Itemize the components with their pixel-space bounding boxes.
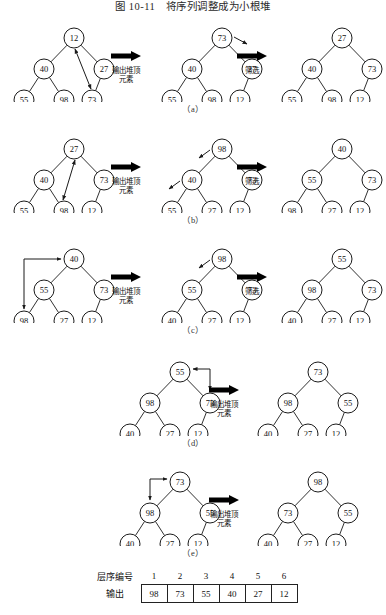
tree-edge — [325, 489, 341, 506]
process-arrow-glyph — [111, 51, 141, 61]
tree-edge — [293, 521, 302, 535]
level-order-index-cell: 4 — [219, 568, 245, 585]
tree-node: 12 — [82, 201, 102, 213]
tree-edge — [349, 45, 365, 62]
tree-node: 40 — [182, 59, 202, 79]
tree-node-label: 40 — [188, 175, 197, 185]
process-arrow-label-line2: 元素 — [217, 408, 232, 418]
tree-edge — [340, 412, 345, 424]
tree-node-label: 12 — [194, 429, 203, 436]
tree-edge — [340, 522, 345, 534]
row-header-level-order: 层序编号 — [89, 568, 142, 585]
tree-node-label: 12 — [194, 539, 203, 546]
tree-node: 98 — [302, 280, 322, 300]
tree-node-label: 55 — [20, 206, 29, 213]
tree-node: 55 — [302, 170, 322, 190]
tree-node: 73 — [362, 170, 382, 190]
tree-node: 27 — [322, 201, 342, 213]
tree-node: 27 — [64, 139, 84, 159]
tree-node: 40 — [34, 59, 54, 79]
tree-node: 12 — [82, 311, 102, 323]
figure-title: 图 10-11 将序列调整成为小根堆 — [0, 0, 386, 11]
level-order-index-cell: 3 — [193, 568, 219, 585]
tree-edge — [197, 298, 206, 312]
process-arrow-label-line2: 元素 — [119, 185, 134, 195]
tree-node-label: 12 — [356, 316, 365, 323]
tree-node: 98 — [140, 393, 160, 413]
tree-node: 73 — [94, 280, 114, 300]
tree-edge — [273, 521, 282, 535]
tree-edge — [177, 188, 186, 202]
tree-edge — [135, 411, 144, 425]
tree-node-label: 98 — [60, 206, 69, 213]
table-row-index: 层序编号 123456 — [89, 568, 298, 585]
row-header-output: 输出 — [89, 585, 142, 603]
tree-node-label: 73 — [368, 285, 377, 295]
swap-arrow — [75, 49, 91, 89]
tree-node-label: 98 — [20, 316, 29, 323]
tree-node-label: 73 — [368, 175, 377, 185]
tree-node: 27 — [54, 311, 74, 323]
tree-node: 12 — [326, 424, 346, 436]
tree-node: 73 — [82, 90, 102, 102]
process-arrow-label-line1: 筛选 — [245, 286, 260, 296]
tree-node-label: 12 — [88, 206, 97, 213]
tree-node-label: 40 — [70, 254, 79, 264]
tree-node: 27 — [322, 311, 342, 323]
tree-node-label: 27 — [328, 316, 337, 323]
tree-node: 12 — [188, 424, 208, 436]
tree-a-3: 274073559812 — [282, 28, 382, 102]
sift-hint-arrow — [234, 37, 247, 44]
tree-node: 27 — [202, 201, 222, 213]
tree-node-label: 12 — [332, 539, 341, 546]
sift-hint-arrow — [199, 260, 210, 268]
level-order-index-cell: 6 — [271, 568, 297, 585]
tree-edge — [197, 188, 206, 202]
swap-arrow — [193, 369, 210, 390]
tree-node: 12 — [64, 28, 84, 48]
tree-node-label: 98 — [218, 144, 227, 154]
tree-edge — [51, 266, 67, 283]
tree-edge — [157, 489, 173, 506]
tree-node-label: 55 — [188, 285, 197, 295]
tree-node: 55 — [14, 201, 34, 213]
process-arrow-output-d: 输出堆顶元素 — [209, 385, 239, 418]
tree-edge — [199, 156, 215, 173]
tree-edge — [177, 298, 186, 312]
tree-row-canvas-e: 739855402712987355402712输出堆顶元素 — [0, 458, 386, 546]
tree-node: 98 — [54, 90, 74, 102]
section-label-d: （d） — [0, 436, 386, 448]
figure-row-a: 124027559873734027559812274073559812输出堆顶… — [0, 14, 386, 102]
figure-row-b: 274073559812984073552712405573982712输出堆顶… — [0, 125, 386, 213]
tree-node-label: 27 — [166, 539, 175, 546]
process-arrow-output-c: 输出堆顶元素 — [111, 272, 141, 305]
tree-edge — [244, 299, 249, 311]
tree-edge — [29, 77, 38, 91]
output-value-cell: 12 — [271, 585, 297, 603]
output-value-cell: 73 — [167, 585, 193, 603]
tree-node-label: 55 — [288, 95, 297, 102]
figure-row-e: 739855402712987355402712输出堆顶元素 — [0, 458, 386, 546]
tree-node: 40 — [282, 311, 302, 323]
tree-edge — [364, 78, 369, 90]
tree-edge — [295, 489, 311, 506]
tree-node-label: 27 — [338, 33, 347, 43]
tree-row-canvas-d: 559873402712739855402712输出堆顶元素 — [0, 348, 386, 436]
tree-node-label: 12 — [236, 95, 245, 102]
tree-edge — [273, 411, 282, 425]
tree-edge — [319, 45, 335, 62]
tree-node: 12 — [350, 90, 370, 102]
process-arrow-glyph — [111, 272, 141, 282]
tree-node-label: 40 — [308, 64, 317, 74]
tree-node: 98 — [282, 201, 302, 213]
tree-edge — [317, 77, 326, 91]
section-label-c: （c） — [0, 323, 386, 335]
tree-node: 73 — [94, 170, 114, 190]
tree-node: 98 — [54, 201, 74, 213]
tree-node-label: 73 — [100, 175, 109, 185]
tree-node: 55 — [162, 90, 182, 102]
process-arrow-label-line1: 输出堆顶 — [112, 65, 141, 75]
tree-edge — [319, 266, 335, 283]
tree-node: 98 — [322, 90, 342, 102]
tree-node-label: 40 — [168, 316, 177, 323]
